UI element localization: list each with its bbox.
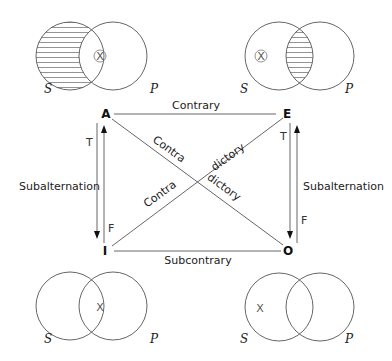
label-p: P: [344, 332, 354, 346]
arrowhead-up-icon: [294, 125, 300, 133]
label-p: P: [344, 82, 354, 96]
venn-top-left: X S P: [36, 22, 159, 96]
label-dictory-lower-right: dictory: [205, 171, 244, 204]
circle-s: [36, 272, 104, 340]
label-contra-lower-left: Contra: [141, 178, 179, 210]
label-s: S: [240, 82, 248, 96]
venn-bottom-right: X S P: [240, 273, 354, 346]
arrowhead-down-icon: [94, 231, 100, 239]
label-subcontrary: Subcontrary: [164, 254, 232, 267]
label-t-right: T: [279, 130, 287, 143]
label-dictory-upper-right: dictory: [209, 140, 248, 173]
arrowhead-down-icon: [287, 231, 293, 239]
label-s: S: [44, 332, 52, 346]
square-lines: [97, 114, 297, 251]
arrowhead-up-icon: [101, 125, 107, 133]
x-mark: X: [256, 302, 264, 315]
venn-bottom-left: X S P: [36, 272, 159, 346]
label-t-left: T: [85, 136, 93, 149]
label-f-right: F: [301, 214, 307, 227]
circle-p: [286, 273, 354, 341]
label-subalternation-right: Subalternation: [303, 180, 384, 193]
square-of-opposition-diagram: X S P X S P A E I O Contrary Subcontrary: [0, 0, 392, 361]
corner-a: A: [101, 107, 111, 121]
x-mark: X: [257, 50, 265, 63]
corner-e: E: [283, 107, 291, 121]
x-mark: X: [96, 301, 104, 314]
label-subalternation-left: Subalternation: [19, 180, 100, 193]
label-f-left: F: [108, 222, 114, 235]
label-s: S: [240, 332, 248, 346]
label-s: S: [44, 82, 52, 96]
circle-p: [79, 272, 147, 340]
x-mark: X: [96, 50, 104, 63]
label-contra-upper-left: Contra: [150, 133, 188, 165]
label-contrary: Contrary: [172, 99, 220, 112]
venn-top-right: X S P: [240, 22, 354, 96]
corner-i: I: [103, 244, 107, 258]
label-p: P: [149, 332, 159, 346]
circle-s: [245, 273, 313, 341]
contradictory-line-e-i: [112, 118, 283, 246]
label-p: P: [149, 82, 159, 96]
corner-o: O: [283, 244, 293, 258]
